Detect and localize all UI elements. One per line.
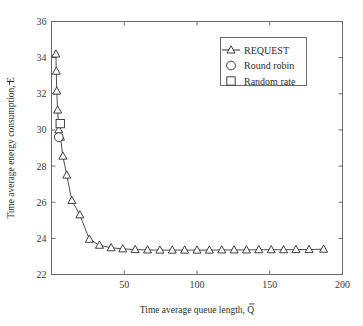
data-marker-triangle [292, 245, 300, 252]
data-marker-triangle [181, 246, 189, 253]
data-marker-triangle [96, 241, 104, 248]
series-random-rate [56, 119, 64, 127]
y-tick-label: 32 [37, 88, 47, 99]
data-marker-triangle [205, 246, 213, 253]
legend-label: Random rate [244, 76, 296, 87]
data-marker-triangle [52, 67, 60, 74]
data-marker-square [56, 119, 64, 127]
data-marker-triangle [255, 246, 263, 253]
data-marker-circle [54, 133, 63, 142]
data-marker-triangle [53, 87, 61, 94]
legend-label: Round robin [244, 60, 294, 71]
data-marker-triangle [54, 106, 62, 113]
x-title-overbar [249, 304, 254, 305]
data-marker-square [227, 77, 235, 85]
legend-items: REQUESTRound robinRandom rate [222, 45, 296, 87]
y-tick-label: 28 [37, 161, 47, 172]
data-marker-triangle [156, 246, 164, 253]
y-tick-label: 26 [37, 197, 47, 208]
figure-container: 2224262830323436 50100150200 Time averag… [0, 0, 363, 326]
data-marker-triangle [52, 50, 60, 57]
data-marker-triangle [280, 246, 288, 253]
data-marker-triangle [59, 152, 67, 159]
data-marker-triangle [76, 211, 84, 218]
data-marker-triangle [168, 246, 176, 253]
x-axis-title: Time average queue length, Q [140, 305, 255, 315]
y-tick-label: 36 [37, 16, 47, 27]
x-tick-label: 50 [119, 279, 129, 290]
x-tick-label: 200 [335, 279, 350, 290]
data-marker-triangle [63, 171, 71, 178]
data-marker-triangle [267, 246, 275, 253]
y-tick-label: 24 [37, 233, 47, 244]
data-marker-triangle [144, 246, 152, 253]
data-marker-triangle [85, 235, 93, 242]
y-axis-title-overbar [9, 81, 10, 86]
y-tick-label: 30 [37, 124, 47, 135]
y-title-overbar [9, 81, 10, 86]
y-tick-label: 34 [37, 52, 47, 63]
energy-vs-queue-chart: 2224262830323436 50100150200 Time averag… [0, 0, 363, 326]
data-marker-triangle [320, 245, 328, 252]
y-tick-label: 22 [37, 269, 47, 280]
data-marker-triangle [305, 245, 313, 252]
x-axis-title-overbar [249, 304, 254, 305]
x-tick-label: 150 [262, 279, 277, 290]
data-marker-triangle [230, 246, 238, 253]
data-marker-circle [227, 61, 236, 70]
data-marker-triangle [218, 246, 226, 253]
data-marker-triangle [242, 246, 250, 253]
legend-label: REQUEST [244, 45, 289, 56]
series-round-robin [54, 133, 63, 142]
data-marker-triangle [193, 246, 201, 253]
data-marker-triangle [68, 196, 76, 203]
chart-legend[interactable]: REQUESTRound robinRandom rate [221, 38, 307, 87]
y-axis-title: Time average energy consumption, E [6, 77, 16, 219]
x-tick-label: 100 [190, 279, 205, 290]
